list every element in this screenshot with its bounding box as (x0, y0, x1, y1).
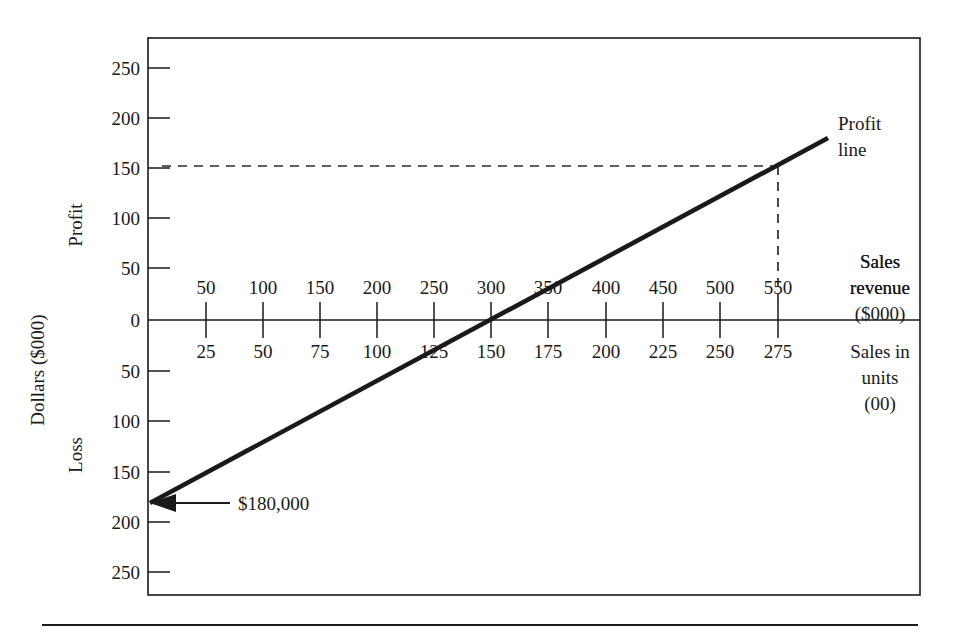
y-tick-label: 200 (112, 512, 141, 533)
profit-line-label-line-2: line (838, 139, 867, 160)
units-caption-c: (00) (864, 393, 896, 415)
x-tick-label-revenue: 200 (363, 277, 392, 298)
x-tick-label-revenue: 300 (477, 277, 506, 298)
y-tick-label: 100 (112, 208, 141, 229)
x-tick-label-revenue: 150 (306, 277, 335, 298)
y-axis-title: Dollars ($000) (27, 314, 49, 425)
x-tick-label-revenue: 100 (249, 277, 278, 298)
x-tick-label-revenue: 50 (197, 277, 216, 298)
x-tick-label-units: 175 (534, 341, 563, 362)
y-tick-label: 200 (112, 108, 141, 129)
y-tick-label: 50 (121, 361, 140, 382)
y-tick-label: 250 (112, 58, 141, 79)
x-tick-label-units: 275 (764, 341, 793, 362)
y-axis-tick-labels-upper: 250 200 150 100 50 0 (112, 58, 141, 331)
profit-line-label: Profit line (838, 113, 882, 160)
x-axis-caption-units: Sales in units (00) (850, 341, 910, 415)
profit-volume-chart: 250 200 150 100 50 0 50 100 150 200 250 (0, 0, 959, 642)
units-caption-b: units (862, 367, 899, 388)
y-tick-label: 250 (112, 562, 141, 583)
x-tick-label-units: 150 (477, 341, 506, 362)
y-tick-label: 150 (112, 462, 141, 483)
y-tick-label: 150 (112, 158, 141, 179)
x-tick-label-revenue: 250 (420, 277, 449, 298)
profit-volume-chart-figure: 250 200 150 100 50 0 50 100 150 200 250 (0, 0, 959, 642)
x-tick-label-units: 100 (363, 341, 392, 362)
y-tick-label-zero: 0 (131, 310, 141, 331)
y-tick-label: 100 (112, 411, 141, 432)
y-axis-tick-labels-lower: 50 100 150 200 250 (112, 361, 141, 583)
x-tick-label-units: 250 (706, 341, 735, 362)
revenue-caption-c: ($000) (855, 303, 906, 325)
x-axis-tick-labels-units: 25 50 75 100 125 150 175 200 225 250 275 (197, 341, 793, 362)
x-tick-label-units: 50 (254, 341, 273, 362)
revenue-caption-b: revenue (850, 277, 910, 298)
revenue-caption-a: Sales (860, 251, 900, 272)
profit-line-label-line-1: Profit (838, 113, 882, 134)
intercept-annotation-label: $180,000 (238, 493, 309, 514)
units-caption-a: Sales in (850, 341, 910, 362)
x-tick-label-revenue: 500 (706, 277, 735, 298)
y-axis-label-profit: Profit (65, 203, 86, 247)
y-axis-label-loss: Loss (65, 437, 86, 473)
x-tick-label-revenue: 400 (592, 277, 621, 298)
intercept-annotation: $180,000 (150, 493, 309, 514)
x-axis-tick-labels-revenue: 50 100 150 200 250 300 350 400 450 500 5… (197, 277, 793, 298)
x-tick-label-revenue: 450 (649, 277, 678, 298)
y-tick-label: 50 (121, 258, 140, 279)
x-tick-label-units: 225 (649, 341, 678, 362)
x-tick-label-units: 75 (311, 341, 330, 362)
x-tick-label-units: 200 (592, 341, 621, 362)
x-tick-label-units: 25 (197, 341, 216, 362)
